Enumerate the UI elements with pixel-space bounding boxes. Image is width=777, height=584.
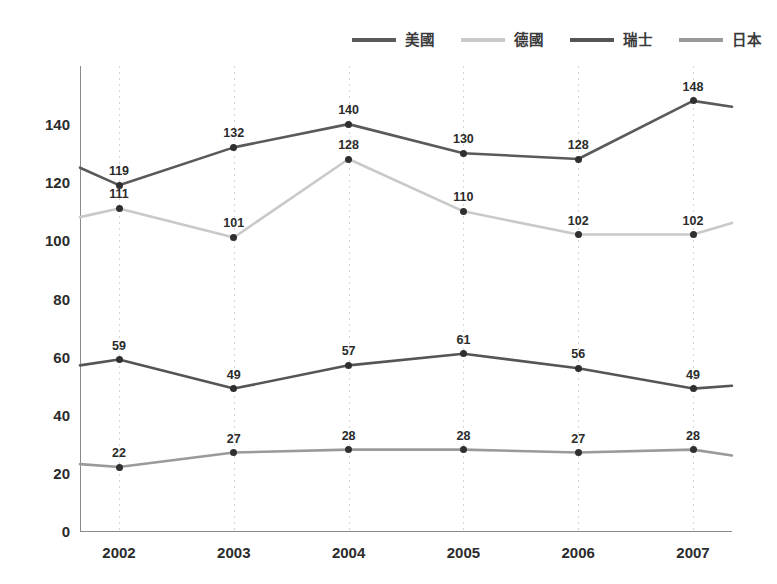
- x-axis-line: [80, 531, 732, 532]
- legend-item[interactable]: 美國: [352, 33, 435, 48]
- data-point-label: 22: [89, 447, 149, 460]
- data-point-marker[interactable]: [690, 385, 697, 392]
- data-point-marker[interactable]: [690, 97, 697, 104]
- data-point-marker[interactable]: [116, 205, 123, 212]
- y-tick-label: 140: [14, 117, 70, 132]
- data-point-label: 28: [319, 430, 379, 443]
- data-point-label: 61: [433, 334, 493, 347]
- legend-color-swatch: [679, 38, 723, 42]
- data-point-marker[interactable]: [460, 150, 467, 157]
- x-tick-label: 2006: [533, 545, 623, 560]
- data-point-label: 132: [204, 127, 264, 140]
- legend-item[interactable]: 日本: [679, 33, 762, 48]
- legend-color-swatch: [461, 38, 505, 42]
- data-point-label: 102: [548, 215, 608, 228]
- plot-area: 1191321401301281481111011281101021025949…: [80, 66, 732, 531]
- y-tick-label: 100: [14, 233, 70, 248]
- data-point-marker[interactable]: [575, 156, 582, 163]
- data-point-label: 28: [663, 430, 723, 443]
- x-tick-label: 2004: [304, 545, 394, 560]
- x-tick-label: 2005: [418, 545, 508, 560]
- data-point-label: 101: [204, 217, 264, 230]
- data-point-label: 148: [663, 81, 723, 94]
- data-point-label: 119: [89, 165, 149, 178]
- data-point-label: 59: [89, 340, 149, 353]
- y-tick-label: 80: [14, 292, 70, 307]
- y-tick-label: 120: [14, 175, 70, 190]
- data-point-label: 28: [433, 430, 493, 443]
- series-line-德國: [80, 159, 732, 237]
- x-tick-label: 2007: [648, 545, 738, 560]
- data-point-label: 130: [433, 133, 493, 146]
- data-point-marker[interactable]: [575, 365, 582, 372]
- data-point-marker[interactable]: [460, 208, 467, 215]
- data-point-marker[interactable]: [460, 446, 467, 453]
- data-point-label: 49: [663, 369, 723, 382]
- data-point-marker[interactable]: [345, 156, 352, 163]
- data-point-label: 140: [319, 104, 379, 117]
- data-point-label: 102: [663, 215, 723, 228]
- data-point-label: 111: [89, 188, 149, 201]
- data-point-label: 110: [433, 191, 493, 204]
- legend-label: 瑞士: [623, 33, 653, 48]
- data-point-label: 27: [204, 433, 264, 446]
- data-point-marker[interactable]: [690, 446, 697, 453]
- legend-item[interactable]: 瑞士: [570, 33, 653, 48]
- data-point-marker[interactable]: [345, 121, 352, 128]
- data-point-marker[interactable]: [345, 362, 352, 369]
- series-line-美國: [80, 101, 732, 185]
- line-chart: 美國德國瑞士日本 1191321401301281481111011281101…: [0, 0, 777, 584]
- series-line-日本: [80, 450, 732, 467]
- data-point-marker[interactable]: [575, 449, 582, 456]
- y-tick-label: 20: [14, 466, 70, 481]
- legend-color-swatch: [570, 38, 614, 42]
- data-point-label: 128: [319, 139, 379, 152]
- x-tick-label: 2003: [189, 545, 279, 560]
- legend-item[interactable]: 德國: [461, 33, 544, 48]
- data-point-label: 56: [548, 348, 608, 361]
- x-tick-label: 2002: [74, 545, 164, 560]
- data-point-label: 27: [548, 433, 608, 446]
- data-point-marker[interactable]: [575, 231, 582, 238]
- legend-color-swatch: [352, 38, 396, 42]
- chart-legend: 美國德國瑞士日本: [352, 33, 762, 48]
- y-tick-label: 0: [14, 524, 70, 539]
- legend-label: 美國: [405, 33, 435, 48]
- data-point-label: 49: [204, 369, 264, 382]
- series-line-瑞士: [80, 354, 732, 389]
- legend-label: 德國: [514, 33, 544, 48]
- data-point-marker[interactable]: [116, 356, 123, 363]
- y-tick-label: 40: [14, 408, 70, 423]
- y-tick-label: 60: [14, 350, 70, 365]
- data-point-marker[interactable]: [116, 464, 123, 471]
- data-point-label: 57: [319, 345, 379, 358]
- series-lines: [80, 66, 732, 531]
- data-point-marker[interactable]: [690, 231, 697, 238]
- data-point-label: 128: [548, 139, 608, 152]
- legend-label: 日本: [732, 33, 762, 48]
